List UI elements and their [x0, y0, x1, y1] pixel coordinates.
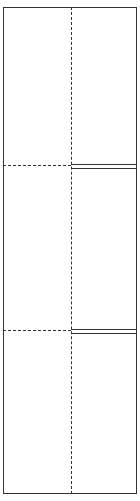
panel-left-3 — [3, 330, 71, 494]
panel-right-3 — [71, 333, 137, 494]
panel-right-2 — [71, 168, 137, 329]
panel-left-1 — [3, 7, 71, 165]
panel-right-1 — [71, 7, 137, 164]
panel-left-2 — [3, 165, 71, 330]
